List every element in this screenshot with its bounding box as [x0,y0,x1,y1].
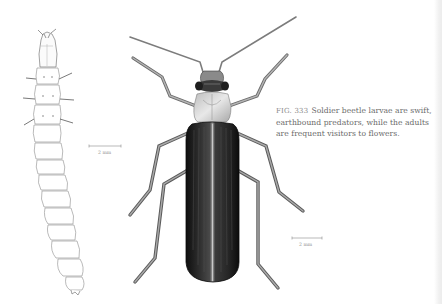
beetle-scale-bar [292,237,322,240]
larva-scale-label: 2 mm [98,150,111,155]
figure-number: FIG. 333 [276,107,308,115]
beetle-scale-label: 2 mm [299,242,312,247]
figure-artwork [0,0,442,304]
figure-caption: FIG. 333Soldier beetle larvae are swift,… [276,105,436,139]
adult-beetle-illustration [130,17,303,288]
larva-illustration [23,29,84,295]
caption-line-3: are frequent visitors to flowers. [276,129,400,138]
larva-scale-bar [89,145,121,148]
caption-line-2: earthbound predators, while the adults [276,118,429,127]
caption-line-1: Soldier beetle larvae are swift, [311,106,431,115]
book-page: 2 mm 2 mm FIG. 333Soldier beetle larvae … [0,0,442,304]
